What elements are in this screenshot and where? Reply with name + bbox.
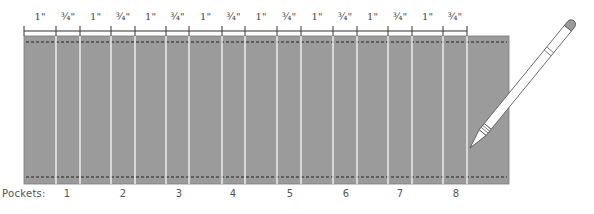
pocket-fold-diagram: 1"¾"1"¾"1"¾"1"¾"1"¾"1"¾"1"¾"1"¾" Pockets… (0, 0, 594, 214)
segment-width-label: 1" (422, 11, 433, 22)
segment-width-label: ¾" (282, 11, 296, 22)
measurement-ruler (24, 26, 467, 36)
pocket-number-label: 5 (287, 188, 293, 199)
segment-width-label: ¾" (61, 11, 75, 22)
pocket-number-label: 6 (343, 188, 349, 199)
segment-width-label: 1" (367, 11, 378, 22)
fabric-panel (24, 36, 509, 184)
segment-width-label: ¾" (393, 11, 407, 22)
pocket-number-label: 3 (176, 188, 182, 199)
segment-width-label: ¾" (170, 11, 184, 22)
segment-width-label: ¾" (448, 11, 462, 22)
pocket-number-label: 2 (120, 188, 126, 199)
pocket-number-label: 1 (64, 188, 70, 199)
segment-width-label: 1" (256, 11, 267, 22)
segment-width-label: 1" (35, 11, 46, 22)
segment-width-label: ¾" (226, 11, 240, 22)
segment-width-label: 1" (90, 11, 101, 22)
segment-width-label: ¾" (338, 11, 352, 22)
segment-width-label: 1" (200, 11, 211, 22)
segment-width-label: ¾" (116, 11, 130, 22)
diagram-canvas (0, 0, 594, 214)
pockets-title: Pockets: (2, 188, 46, 199)
segment-width-label: 1" (312, 11, 323, 22)
pocket-number-label: 7 (397, 188, 403, 199)
segment-width-label: 1" (145, 11, 156, 22)
pocket-number-label: 4 (230, 188, 236, 199)
pocket-number-label: 8 (453, 188, 459, 199)
